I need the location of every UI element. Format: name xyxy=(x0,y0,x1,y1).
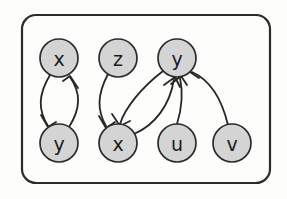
node-label: y xyxy=(53,133,64,155)
edge-z-to-x xyxy=(99,74,115,128)
node-top-z[interactable]: z xyxy=(99,39,137,77)
node-bottom-x[interactable]: x xyxy=(99,124,137,162)
edge-x-to-y-left xyxy=(41,75,56,127)
node-bottom-y[interactable]: y xyxy=(40,124,78,162)
node-bottom-v[interactable]: v xyxy=(213,124,251,162)
node-label: x xyxy=(53,48,64,70)
node-top-y[interactable]: y xyxy=(158,39,196,77)
node-label: y xyxy=(171,48,182,70)
edge-y-to-x-right xyxy=(63,76,78,127)
node-label: v xyxy=(226,133,237,155)
graph-svg: x z y y x u xyxy=(0,0,287,199)
node-label: z xyxy=(113,48,123,70)
node-label: u xyxy=(171,133,183,155)
edge-v-to-y xyxy=(190,62,228,125)
diagram-canvas: x z y y x u xyxy=(0,0,287,199)
node-top-x[interactable]: x xyxy=(40,39,78,77)
node-bottom-u[interactable]: u xyxy=(158,124,196,162)
node-label: x xyxy=(112,133,123,155)
